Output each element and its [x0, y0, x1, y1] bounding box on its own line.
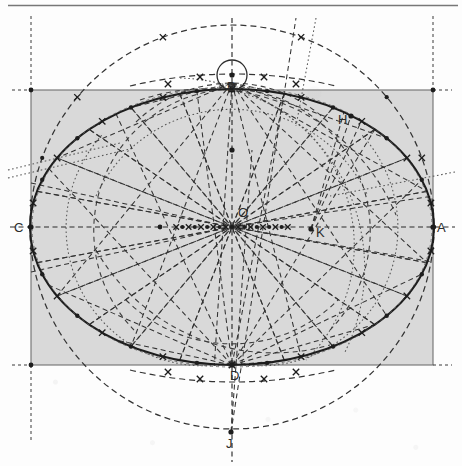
rim-dot-200: [40, 178, 44, 182]
rim-dot-60: [331, 344, 335, 348]
label-O: O: [238, 205, 248, 220]
point-dot-rect-bl: [29, 363, 34, 368]
point-dot-J: [228, 429, 233, 434]
chord-mark-top-0: [165, 81, 171, 87]
rim-dot-260: [195, 89, 199, 93]
rim-dot-160: [40, 272, 44, 276]
rim-dot-20: [420, 272, 424, 276]
rim-dot-100: [195, 361, 199, 365]
chord-mark-bottom-0: [165, 369, 171, 375]
circle-cross-290: [298, 34, 304, 40]
chord-mark-bottom-3: [293, 369, 299, 375]
center-mark-7: [218, 225, 222, 229]
label-D: D: [230, 368, 239, 383]
rim-dot-80: [265, 361, 269, 365]
center-mark-17: [280, 225, 284, 229]
label-A: A: [437, 220, 446, 235]
rim-dot-300: [331, 105, 335, 109]
point-dot-B: [229, 72, 234, 77]
rim-dot-140: [75, 314, 79, 318]
circle-dot-200: [40, 156, 44, 160]
rim-dot-40: [385, 314, 389, 318]
diagram-stage: A B C D H J K O: [0, 0, 462, 466]
ellipse-construction-figure: A B C D H J K O: [0, 0, 462, 466]
center-mark-3: [193, 225, 197, 229]
center-mark-13: [255, 225, 259, 229]
point-dot-A: [430, 224, 435, 229]
chord-mark-top-3: [293, 81, 299, 87]
circle-dot-320: [385, 95, 389, 99]
label-J: J: [226, 436, 233, 451]
rim-dot-240: [129, 105, 133, 109]
center-mark-1: [180, 225, 184, 229]
point-dot-H: [348, 113, 353, 118]
point-dot-K: [308, 226, 313, 231]
center-mark-5: [205, 225, 209, 229]
point-dot-upper-mid: [229, 147, 234, 152]
point-dot-C: [28, 224, 33, 229]
center-mark-15: [267, 225, 271, 229]
label-B: B: [227, 79, 236, 94]
label-K: K: [316, 225, 325, 240]
point-dot-rect-tr: [431, 88, 436, 93]
point-dot-rect-tl: [29, 88, 34, 93]
point-dot-left-axis: [158, 225, 163, 230]
center-mark-9: [230, 225, 234, 229]
rim-dot-280: [265, 89, 269, 93]
rim-dot-340: [420, 178, 424, 182]
rim-dot-320: [385, 136, 389, 140]
rim-dot-220: [75, 136, 79, 140]
paper-surface: A B C D H J K O: [0, 0, 462, 466]
center-mark-11: [242, 225, 246, 229]
label-C: C: [14, 220, 23, 235]
point-dot-D: [229, 362, 234, 367]
circle-cross-250: [160, 34, 166, 40]
rim-dot-120: [129, 344, 133, 348]
label-H: H: [338, 112, 347, 127]
